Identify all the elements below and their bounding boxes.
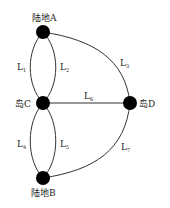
edge-l1 [30, 32, 43, 103]
edge-label-l3: L3 [120, 58, 129, 69]
node-label-d: 岛D [139, 98, 155, 109]
node-label-a: 陆地A [32, 12, 57, 23]
node-label-c: 岛C [15, 98, 31, 109]
node-c [36, 96, 50, 110]
edge-label-l1: L1 [17, 62, 26, 73]
node-d [123, 96, 137, 110]
graph-diagram: 陆地A 岛C 岛D 陆地B L1 L2 L3 L6 L4 L5 L7 [0, 0, 170, 208]
edge-label-l5: L5 [60, 139, 69, 150]
edge-l2 [43, 32, 56, 103]
node-b [36, 171, 50, 185]
edge-label-l6: L6 [84, 91, 93, 102]
node-a [36, 25, 50, 39]
edge-label-l7: L7 [121, 142, 130, 153]
node-label-b: 陆地B [31, 187, 56, 198]
edge-l4 [30, 103, 43, 178]
edge-label-l4: L4 [17, 139, 26, 150]
edge-l5 [43, 103, 56, 178]
edge-label-l2: L2 [60, 62, 69, 73]
